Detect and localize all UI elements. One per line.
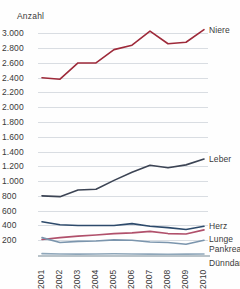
series-line-pankreas: [42, 238, 204, 245]
x-tick-label: 2001: [36, 270, 46, 289]
y-tick-label: 2.000: [2, 102, 36, 112]
x-tick-label: 2004: [90, 270, 100, 289]
y-tick-label: 2.600: [2, 58, 36, 68]
y-tick-label: 1.200: [2, 161, 36, 171]
series-label-niere: Niere: [209, 25, 230, 35]
y-tick-label: 400: [2, 220, 36, 230]
line-chart: Anzahl 3.0002.8002.6002.4002.2002.0001.8…: [0, 0, 240, 289]
x-tick-label: 2002: [54, 270, 64, 289]
series-line-niere: [42, 30, 204, 80]
y-tick-label: 1.800: [2, 117, 36, 127]
series-lines: [38, 26, 208, 255]
y-tick-label: 2.400: [2, 73, 36, 83]
y-axis-title: Anzahl: [17, 11, 44, 21]
y-axis-tick-labels: 3.0002.8002.6002.4002.2002.0001.8001.600…: [0, 26, 36, 255]
y-tick-label: 600: [2, 206, 36, 216]
series-line-herz: [42, 222, 204, 230]
series-label-dünndarm: Dünndarm: [209, 258, 240, 268]
x-tick-label: 2008: [162, 270, 172, 289]
y-tick-label: 1.000: [2, 176, 36, 186]
x-tick-label: 2003: [72, 270, 82, 289]
series-label-pankreas: Pankreas: [209, 244, 240, 254]
x-axis-baseline: [38, 255, 210, 257]
series-label-leber: Leber: [209, 154, 231, 164]
y-tick-label: 800: [2, 191, 36, 201]
y-tick-label: 200: [2, 235, 36, 245]
y-tick-label: 1.600: [2, 132, 36, 142]
y-tick-label: 2.800: [2, 43, 36, 53]
series-line-leber: [42, 159, 204, 197]
series-line-lunge: [42, 230, 204, 240]
y-tick-label: 3.000: [2, 28, 36, 38]
x-tick-label: 2005: [108, 270, 118, 289]
series-label-herz: Herz: [209, 221, 227, 231]
x-axis-tick-labels: 2001200220032004200520062007200820092010: [38, 258, 208, 289]
x-tick-label: 2006: [126, 270, 136, 289]
x-tick-label: 2010: [198, 270, 208, 289]
y-tick-label: 2.200: [2, 87, 36, 97]
x-tick-label: 2007: [144, 270, 154, 289]
y-tick-label: 1.400: [2, 147, 36, 157]
x-tick-label: 2009: [180, 270, 190, 289]
series-label-lunge: Lunge: [209, 234, 233, 244]
plot-area: [38, 26, 208, 255]
